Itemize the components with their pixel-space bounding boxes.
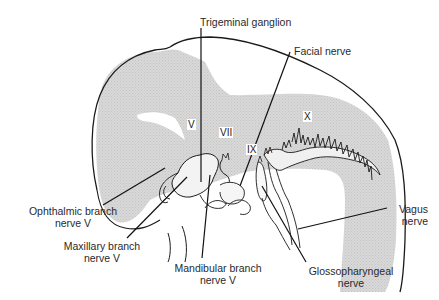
label-facial-nerve: Facial nerve: [294, 45, 351, 57]
label-mandibular-branch: Mandibular branch nerve V: [166, 262, 270, 286]
label-trigeminal-ganglion: Trigeminal ganglion: [200, 16, 291, 28]
label-glossopharyngeal-nerve: Glossopharyngeal nerve: [301, 265, 401, 289]
label-vagus-line2: nerve: [390, 215, 428, 227]
label-glossopharyngeal-line2: nerve: [301, 277, 401, 289]
label-roman-ix: IX: [246, 144, 257, 155]
label-ophthalmic-branch: Ophthalmic branch nerve V: [18, 205, 128, 229]
label-vagus-nerve: Vagus nerve: [390, 203, 428, 227]
label-roman-vii: VII: [219, 127, 233, 138]
label-ophthalmic-line2: nerve V: [18, 217, 128, 229]
label-maxillary-branch: Maxillary branch nerve V: [52, 240, 152, 264]
glossopharyngeal-nerve-path: [262, 198, 290, 250]
label-roman-x: X: [303, 111, 312, 122]
label-vagus-line1: Vagus: [390, 203, 428, 215]
label-mandibular-line1: Mandibular branch: [166, 262, 270, 274]
label-glossopharyngeal-line1: Glossopharyngeal: [301, 265, 401, 277]
label-ophthalmic-line1: Ophthalmic branch: [18, 205, 128, 217]
label-maxillary-line1: Maxillary branch: [52, 240, 152, 252]
label-mandibular-line2: nerve V: [166, 274, 270, 286]
label-roman-v: V: [187, 119, 196, 130]
label-maxillary-line2: nerve V: [52, 252, 152, 264]
leader-glossopharyngeal: [262, 186, 306, 262]
pharyngeal-outline: [168, 226, 186, 262]
